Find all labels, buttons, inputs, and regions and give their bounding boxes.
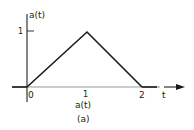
function-caption: a(t) (75, 100, 91, 110)
x-tick-label-0: 0 (28, 90, 34, 100)
x-tick-label-1: 1 (83, 90, 88, 99)
x-axis-label: t (162, 90, 166, 100)
y-tick-label-1: 1 (18, 27, 23, 36)
panel-caption: (a) (77, 114, 90, 124)
x-tick-label-2: 2 (139, 90, 145, 100)
triangle-pulse-diagram: a(t) 1 0 1 2 t a(t) (a) (0, 0, 194, 130)
triangle-pulse-curve (27, 32, 142, 87)
arrow-head-icon (176, 84, 185, 90)
y-axis-label: a(t) (29, 10, 45, 20)
